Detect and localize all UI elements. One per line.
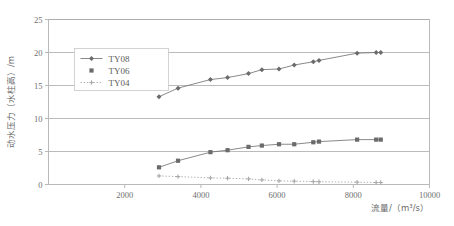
y-axis-title: 动水压力（水柱高）/m bbox=[6, 56, 16, 148]
data-point-ty04 bbox=[260, 178, 264, 182]
data-point-ty06 bbox=[225, 148, 229, 152]
data-point-ty08 bbox=[277, 67, 282, 72]
data-point-ty08 bbox=[374, 50, 379, 55]
y-tick-label: 20 bbox=[34, 48, 43, 58]
data-point-ty04 bbox=[176, 174, 180, 178]
data-point-ty06 bbox=[260, 143, 264, 147]
data-point-ty06 bbox=[176, 159, 180, 163]
x-tick-label: 4000 bbox=[192, 190, 209, 200]
data-point-ty06 bbox=[277, 142, 281, 146]
data-point-ty04 bbox=[246, 177, 250, 181]
chart-plot-frame bbox=[49, 20, 430, 185]
data-point-ty04 bbox=[292, 179, 296, 183]
data-point-ty08 bbox=[246, 71, 251, 76]
x-tick-label: 6000 bbox=[269, 190, 286, 200]
data-point-ty04 bbox=[355, 180, 359, 184]
y-tick-label: 25 bbox=[34, 15, 43, 25]
data-point-ty08 bbox=[311, 59, 316, 64]
data-point-ty04 bbox=[157, 174, 161, 178]
data-point-ty08 bbox=[176, 86, 181, 91]
data-point-ty08 bbox=[156, 94, 161, 99]
data-point-ty08 bbox=[317, 58, 322, 63]
data-point-ty08 bbox=[355, 51, 360, 56]
data-point-ty06 bbox=[374, 138, 378, 142]
chart-figure: 200040006000800010000 0510152025 TY08TY0… bbox=[0, 0, 454, 226]
y-tick-label: 5 bbox=[38, 147, 42, 157]
chart-series-ty04 bbox=[157, 174, 383, 185]
data-point-ty04 bbox=[311, 179, 315, 183]
x-tick-label: 2000 bbox=[116, 190, 133, 200]
data-point-ty06 bbox=[246, 145, 250, 149]
data-point-ty08 bbox=[259, 67, 264, 72]
series-line-ty04 bbox=[159, 176, 381, 183]
chart-legend: TY08TY06TY04 bbox=[75, 49, 169, 91]
data-point-ty04 bbox=[208, 176, 212, 180]
chart-axis-titles: 动水压力（水柱高）/m流量/（m³/s） bbox=[6, 56, 429, 213]
data-point-ty04 bbox=[225, 176, 229, 180]
chart-series-ty06 bbox=[157, 138, 383, 170]
legend-marker-ty06 bbox=[89, 68, 93, 72]
legend-label-ty04: TY04 bbox=[109, 78, 130, 88]
chart-x-ticks: 200040006000800010000 bbox=[116, 185, 440, 201]
legend-label-ty06: TY06 bbox=[109, 66, 130, 76]
data-point-ty04 bbox=[277, 179, 281, 183]
data-point-ty06 bbox=[292, 142, 296, 146]
data-point-ty08 bbox=[225, 75, 230, 80]
data-point-ty08 bbox=[378, 50, 383, 55]
data-point-ty06 bbox=[317, 140, 321, 144]
series-line-ty06 bbox=[159, 140, 381, 168]
scatter-chart: 200040006000800010000 0510152025 TY08TY0… bbox=[0, 0, 454, 226]
data-point-ty06 bbox=[157, 165, 161, 169]
y-tick-label: 10 bbox=[34, 114, 43, 124]
data-point-ty08 bbox=[292, 63, 297, 68]
chart-y-ticks: 0510152025 bbox=[34, 15, 49, 190]
data-point-ty06 bbox=[355, 138, 359, 142]
x-tick-label: 8000 bbox=[345, 190, 362, 200]
y-tick-label: 15 bbox=[34, 81, 43, 91]
x-axis-title: 流量/（m³/s） bbox=[371, 203, 429, 213]
data-point-ty06 bbox=[311, 140, 315, 144]
legend-label-ty08: TY08 bbox=[109, 54, 130, 64]
chart-series-ty08 bbox=[156, 50, 383, 99]
data-point-ty06 bbox=[379, 138, 383, 142]
y-tick-label: 0 bbox=[38, 180, 42, 190]
data-point-ty04 bbox=[317, 180, 321, 184]
data-point-ty08 bbox=[208, 77, 213, 82]
x-tick-label: 10000 bbox=[419, 190, 440, 200]
series-line-ty08 bbox=[159, 53, 381, 97]
data-point-ty06 bbox=[208, 150, 212, 154]
